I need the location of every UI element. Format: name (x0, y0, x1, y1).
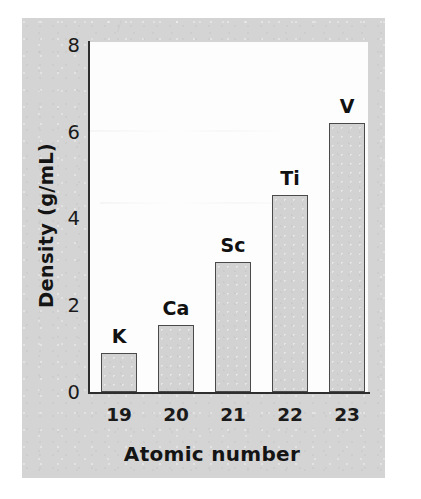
x-tick-label-20: 20 (154, 406, 198, 425)
bar-20-Ca (158, 325, 194, 392)
y-axis-title: Density (g/mL) (35, 116, 58, 336)
y-tick-label-0: 0 (52, 383, 80, 403)
bar-21-Sc (215, 262, 251, 392)
x-tick-label-22: 22 (268, 406, 312, 425)
x-axis-line (88, 392, 370, 394)
bar-label-Sc: Sc (210, 236, 256, 255)
bar-22-Ti (272, 195, 308, 392)
bar-label-K: K (96, 327, 142, 346)
figure-panel: 0 2 4 6 8 K Ca Sc Ti V 19 20 21 22 23 De… (22, 18, 385, 478)
y-tick-label-8: 8 (52, 36, 80, 56)
x-axis-title: Atomic number (62, 442, 362, 466)
bar-label-Ca: Ca (153, 299, 199, 318)
scan-smudge (100, 202, 350, 204)
x-tick-label-21: 21 (211, 406, 255, 425)
y-axis-line (88, 41, 90, 394)
x-tick-label-19: 19 (97, 406, 141, 425)
stray-pen-mark (108, 20, 121, 32)
bar-19-K (101, 353, 137, 392)
bar-label-Ti: Ti (267, 169, 313, 188)
bar-23-V (329, 123, 365, 392)
bar-label-V: V (324, 97, 370, 116)
x-tick-label-23: 23 (325, 406, 369, 425)
